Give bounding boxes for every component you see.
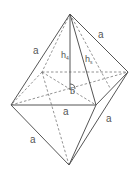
edge-label-front-base: a [63,106,69,117]
height-label-slant: hs [85,54,93,65]
edge-label-top-left: a [33,45,39,56]
edge-label-bottom-left: a [30,134,36,145]
edge-label-bottom-right: a [106,113,112,124]
edge-label-top-right: a [98,29,104,40]
height-label-main: h4 [61,50,69,61]
center-label: b [70,86,75,96]
octahedron-diagram: a a a a a h4 hs b [0,0,139,179]
